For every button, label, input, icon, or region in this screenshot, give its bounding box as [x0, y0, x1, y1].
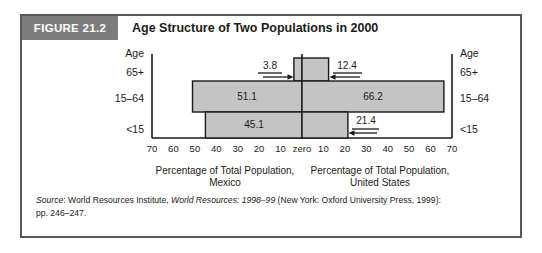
right-caption-line1: Percentage of Total Population,	[311, 165, 450, 176]
figure-frame: FIGURE 21.2 Age Structure of Two Populat…	[20, 14, 522, 238]
source-pages: pp. 246–247.	[36, 208, 86, 218]
bar-us-65plus	[302, 58, 329, 81]
right-label-65plus: 65+	[460, 66, 478, 78]
xtick-label-3: 40	[211, 143, 222, 154]
figure-title: Age Structure of Two Populations in 2000	[118, 16, 520, 40]
arrow-head-mexico-65plus	[288, 74, 294, 80]
xtick-label-1: 60	[168, 143, 179, 154]
source-text-b: (New York: Oxford University Press, 1999…	[275, 195, 441, 205]
xtick-label-14: 70	[447, 143, 458, 154]
right-label-under15: <15	[460, 123, 478, 135]
left-axis-header: Age	[125, 47, 144, 59]
xtick-label-10: 30	[361, 143, 372, 154]
source-note: Source: World Resources Institute, World…	[36, 194, 506, 219]
xtick-label-4: 30	[232, 143, 243, 154]
bar-us-under15	[302, 112, 348, 138]
value-label-mexico-15-64: 51.1	[237, 91, 257, 102]
value-label-mexico-65plus: 3.8	[263, 60, 277, 71]
left-caption-line2: Mexico	[209, 177, 241, 188]
figure-number-badge: FIGURE 21.2	[22, 16, 118, 40]
xtick-label-11: 40	[382, 143, 393, 154]
xtick-label-8: 10	[318, 143, 329, 154]
right-caption-line2: United States	[350, 177, 410, 188]
arrow-head-us-under15	[349, 130, 355, 136]
right-axis-header: Age	[460, 47, 479, 59]
xtick-label-13: 60	[425, 143, 436, 154]
xtick-label-5: 20	[254, 143, 265, 154]
bar-mexico-65plus	[294, 58, 302, 81]
right-label-15-64: 15–64	[460, 92, 489, 104]
xtick-label-2: 50	[190, 143, 201, 154]
left-label-65plus: 65+	[126, 66, 144, 78]
source-text-a: : World Resources Institute,	[63, 195, 171, 205]
xtick-label-zero: zero	[293, 143, 311, 154]
xtick-label-0: 70	[147, 143, 158, 154]
value-label-us-15-64: 66.2	[363, 91, 383, 102]
figure-title-bar: FIGURE 21.2 Age Structure of Two Populat…	[22, 16, 520, 40]
left-label-under15: <15	[126, 123, 144, 135]
left-label-15-64: 15–64	[115, 92, 144, 104]
xtick-label-12: 50	[404, 143, 415, 154]
value-label-mexico-under15: 45.1	[244, 119, 264, 130]
left-caption-line1: Percentage of Total Population,	[156, 165, 295, 176]
value-label-us-under15: 21.4	[356, 115, 376, 126]
xtick-label-6: 10	[275, 143, 286, 154]
arrow-head-us-65plus	[330, 74, 336, 80]
value-label-us-65plus: 12.4	[337, 60, 357, 71]
xtick-label-9: 20	[340, 143, 351, 154]
source-publication-title: World Resources: 1998–99	[171, 195, 275, 205]
source-label: Source	[36, 195, 63, 205]
